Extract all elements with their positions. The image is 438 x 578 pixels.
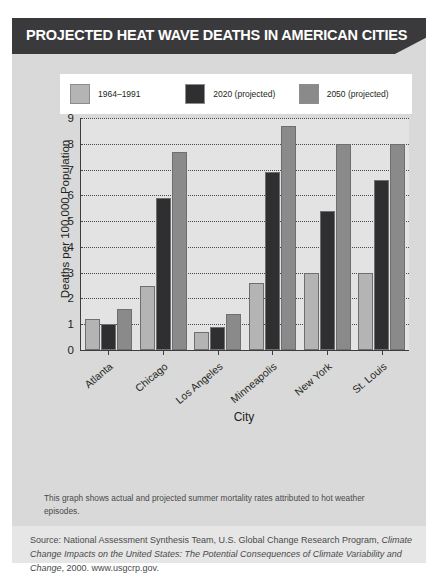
bar [85,319,100,350]
bar [320,211,335,350]
bar-group [136,118,191,350]
plot-area [80,118,409,351]
y-tick-label: 4 [60,241,74,253]
y-tick-label: 9 [60,112,74,124]
source-lead: Source: National Assessment Synthesis Te… [30,535,379,545]
y-tick-label: 8 [60,138,74,150]
x-tick-label: Atlanta [82,360,115,390]
chart-area: Deaths per 100,000 Population 9876543210… [32,118,412,418]
bar [390,144,405,350]
chart-card: PROJECTED HEAT WAVE DEATHS IN AMERICAN C… [12,18,426,563]
bar [101,324,116,350]
bar-groups [81,118,409,350]
bar [336,144,351,350]
y-tick-label: 6 [60,189,74,201]
y-tick-label: 1 [60,318,74,330]
x-label-cell: St. Louis [353,354,408,410]
bar [265,172,280,350]
bar-group [245,118,300,350]
bar-group [190,118,245,350]
bar [156,198,171,350]
infographic-page: PROJECTED HEAT WAVE DEATHS IN AMERICAN C… [0,0,438,578]
bar [172,152,187,350]
y-tick-label: 2 [60,292,74,304]
source-citation: Source: National Assessment Synthesis Te… [30,534,414,576]
legend-item: 2020 (projected) [183,84,298,104]
legend-label: 1964–1991 [98,89,141,99]
bar [281,126,296,350]
bar [140,286,155,350]
bar [210,327,225,350]
bar-group [81,118,136,350]
bar [249,283,264,350]
chart-caption: This graph shows actual and projected su… [44,492,394,518]
x-tick-label: St. Louis [349,360,388,395]
legend-label: 2050 (projected) [327,89,389,99]
y-tick-label: 3 [60,267,74,279]
bar [358,273,373,350]
bar-group [300,118,355,350]
bar [194,332,209,350]
bar [226,314,241,350]
legend-item: 2050 (projected) [299,84,412,104]
bar [374,180,389,350]
chart-legend: 1964–19912020 (projected)2050 (projected… [60,74,412,114]
x-label-cell: New York [299,354,354,410]
bar-group [354,118,409,350]
x-tick-label: Chicago [132,360,169,394]
bar [304,273,319,350]
x-axis-label: City [80,410,408,424]
page-title: PROJECTED HEAT WAVE DEATHS IN AMERICAN C… [26,27,407,43]
bar [117,309,132,350]
x-axis-labels: AtlantaChicagoLos AngelesMinneapolisNew … [80,354,408,410]
y-tick-label: 5 [60,215,74,227]
x-label-cell: Atlanta [80,354,135,410]
y-tick-label: 7 [60,164,74,176]
source-tail: , 2000. www.usgcrp.gov. [62,563,159,573]
legend-swatch [299,84,319,104]
legend-swatch [185,84,205,104]
legend-swatch [70,84,90,104]
x-tick-label: New York [292,360,334,398]
y-axis-ticks: 9876543210 [56,118,74,350]
legend-label: 2020 (projected) [213,89,275,99]
legend-item: 1964–1991 [60,84,183,104]
y-tick-label: 0 [60,344,74,356]
legend-panel: 1964–19912020 (projected)2050 (projected… [60,74,412,114]
x-label-cell: Minneapolis [244,354,299,410]
